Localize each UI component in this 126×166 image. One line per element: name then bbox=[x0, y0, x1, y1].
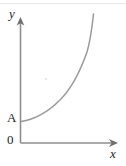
scan-speck bbox=[45, 78, 47, 80]
y-axis-label: y bbox=[9, 7, 15, 20]
origin-label: 0 bbox=[7, 133, 14, 146]
intercept-label-a: A bbox=[7, 111, 16, 124]
coordinate-plot-svg bbox=[0, 0, 126, 166]
exponential-curve bbox=[21, 14, 94, 122]
math-figure: y x A 0 bbox=[0, 0, 126, 166]
x-axis-label: x bbox=[110, 147, 116, 160]
